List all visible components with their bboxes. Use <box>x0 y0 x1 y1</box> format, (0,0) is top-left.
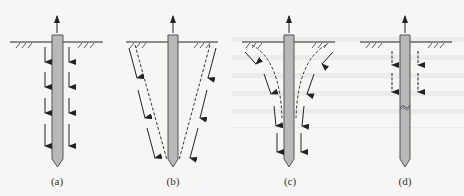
pile-diagram <box>0 0 464 196</box>
panel-b <box>126 16 218 167</box>
panel-label-b: (b) <box>167 175 180 187</box>
panel-d <box>360 16 452 167</box>
panel-label-d: (d) <box>399 175 412 187</box>
pile <box>52 35 63 167</box>
pile <box>168 35 178 167</box>
pile <box>400 35 410 167</box>
pile <box>284 35 294 167</box>
panel-a <box>10 16 103 167</box>
panel-label-a: (a) <box>51 175 63 187</box>
panel-label-c: (c) <box>284 175 296 187</box>
panel-c <box>242 16 335 167</box>
